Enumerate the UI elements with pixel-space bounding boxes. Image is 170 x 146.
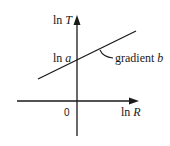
diagram-canvas: ln T ln a gradient b 0 ln R [0,0,170,146]
gradient-label: gradient b [115,51,163,65]
y-axis-arrow-icon [74,15,81,25]
origin-label: 0 [64,107,70,118]
x-axis-arrow-icon [129,98,139,105]
gradient-leader-line [100,50,113,58]
intercept-label: ln a [53,51,71,65]
x-axis-label: ln R [121,105,141,119]
y-axis-label: ln T [53,13,73,27]
